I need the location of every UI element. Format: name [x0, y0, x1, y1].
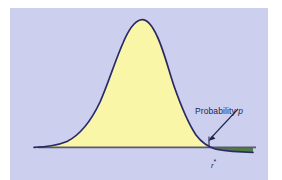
probability-annotation: Probability p: [195, 106, 243, 116]
figure-root: Probability p r*: [0, 0, 282, 180]
normal-curve-chart: [10, 8, 268, 180]
critical-value-annotation-star: *: [214, 158, 217, 165]
probability-annotation-prefix: Probability: [195, 106, 238, 116]
probability-annotation-variable: p: [238, 106, 243, 116]
plot-panel: Probability p r*: [10, 8, 268, 180]
density-body-area: [38, 20, 209, 147]
critical-value-annotation: r*: [211, 158, 216, 170]
